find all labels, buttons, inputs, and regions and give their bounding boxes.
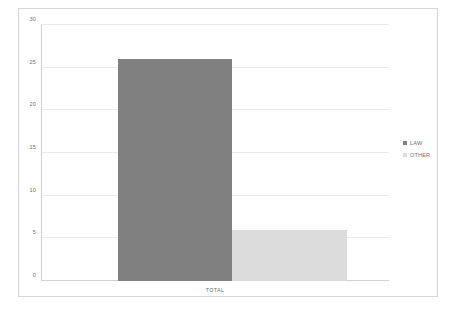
chart-legend: LAWOTHER — [403, 140, 430, 158]
bars-group — [41, 25, 389, 281]
y-axis-tick-label: 15 — [29, 144, 36, 150]
legend-label: LAW — [410, 140, 422, 146]
x-axis-category-label: TOTAL — [41, 287, 389, 293]
y-axis-tick-label: 10 — [29, 187, 36, 193]
y-axis-tick-label: 0 — [33, 272, 36, 278]
bar-other[interactable] — [232, 230, 347, 281]
chart-frame: 051015202530 TOTAL LAWOTHER — [18, 8, 438, 297]
y-axis-tick-label: 30 — [29, 16, 36, 22]
legend-swatch-icon — [403, 153, 407, 157]
legend-swatch-icon — [403, 141, 407, 145]
legend-label: OTHER — [410, 152, 430, 158]
y-axis-tick-label: 5 — [33, 229, 36, 235]
legend-item-other[interactable]: OTHER — [403, 152, 430, 158]
y-axis-tick-label: 20 — [29, 101, 36, 107]
y-axis-tick-label: 25 — [29, 59, 36, 65]
legend-item-law[interactable]: LAW — [403, 140, 430, 146]
plot-area: 051015202530 TOTAL — [41, 25, 389, 281]
bar-law[interactable] — [118, 59, 233, 281]
